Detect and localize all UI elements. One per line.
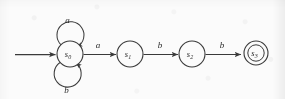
- automaton-figure: a b a b b s0 s1: [0, 0, 285, 99]
- edge-label-s0-s1: a: [96, 40, 101, 50]
- state-node-s1[interactable]: s1: [117, 41, 143, 67]
- state-label-s1-sub: 1: [128, 54, 131, 60]
- edge-label-loop-top: a: [65, 15, 70, 25]
- state-node-s0[interactable]: s0: [57, 41, 83, 67]
- state-label-s0-sub: 0: [68, 54, 71, 60]
- transition-s2-to-s3: b: [206, 40, 242, 55]
- edge-label-s2-s3: b: [220, 40, 225, 50]
- transition-s0-to-s1: a: [84, 40, 117, 55]
- transition-s0-self-loop-bottom: b: [54, 63, 81, 96]
- state-label-s2-sub: 2: [190, 54, 193, 60]
- state-node-s2[interactable]: s2: [179, 41, 205, 67]
- edge-label-loop-bottom: b: [64, 85, 69, 95]
- state-node-s3[interactable]: s3: [244, 41, 268, 65]
- transition-s1-to-s2: b: [144, 40, 179, 55]
- automaton-diagram: a b a b b s0 s1: [0, 0, 285, 99]
- state-label-s3-sub: 3: [254, 53, 258, 59]
- edge-label-s1-s2: b: [158, 40, 163, 50]
